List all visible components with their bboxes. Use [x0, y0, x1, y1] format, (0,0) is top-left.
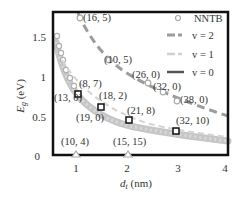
legend-nntb: NNTB: [194, 13, 223, 24]
x-tick-2: 2: [124, 162, 130, 174]
x-axis-label: dt (nm): [120, 177, 152, 191]
y-tick-0: 0: [35, 150, 41, 162]
legend-v1: v = 1: [192, 49, 214, 60]
label-19-0: (19, 0): [76, 112, 104, 124]
label-21-8: (21, 8): [127, 105, 155, 117]
label-10-4: (10, 4): [61, 136, 89, 148]
label-16-5: (16, 5): [83, 12, 111, 24]
legend: NNTB v = 2 v = 1 v = 0: [167, 13, 223, 78]
y-axis-label: Eg (eV): [14, 79, 28, 114]
label-10-5: (10, 5): [104, 54, 132, 66]
y-tick-0-5: 0.5: [32, 111, 46, 123]
legend-nntb-icon: [176, 16, 181, 21]
x-tick-4: 4: [222, 162, 228, 174]
legend-v0: v = 0: [192, 67, 214, 78]
x-tick-3: 3: [175, 162, 181, 174]
label-18-2: (18, 2): [99, 90, 127, 102]
label-26-0: (26, 0): [132, 69, 160, 81]
x-tick-1: 1: [73, 162, 79, 174]
label-8-7: (8, 7): [79, 78, 102, 90]
legend-v2: v = 2: [192, 30, 214, 41]
label-38-0: (38, 0): [180, 94, 208, 106]
y-tick-1: 1: [41, 71, 47, 83]
y-tick-1-5: 1.5: [32, 31, 46, 43]
label-15-15: (15, 15): [113, 136, 147, 148]
label-32-0: (32, 0): [153, 81, 181, 93]
label-13-0: (13, 0): [54, 92, 82, 104]
label-32-10: (32, 10): [176, 115, 210, 127]
band-gap-chart: (16, 5) (10, 5) (26, 0) (32, 0) (38, 0) …: [0, 0, 241, 197]
